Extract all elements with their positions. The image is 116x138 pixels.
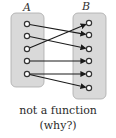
set-b-element-dot <box>86 71 91 76</box>
set-a-element-dot <box>24 58 29 63</box>
set-a-element-dot <box>24 33 29 38</box>
set-b-element-dot <box>86 20 91 25</box>
set-a-label: A <box>22 1 31 14</box>
caption-question: (why?) <box>0 119 116 132</box>
set-b-element-dot <box>86 32 91 37</box>
set-b-element-dot <box>86 46 91 51</box>
set-a-element-dot <box>24 46 29 51</box>
set-b-element-dot <box>86 85 91 90</box>
mapping-diagram: A B <box>0 0 116 100</box>
set-b-element-dot <box>86 58 91 63</box>
set-a-element-dot <box>24 21 29 26</box>
caption-title: not a function <box>0 104 116 117</box>
set-b-label: B <box>81 0 90 13</box>
set-a-element-dot <box>24 71 29 76</box>
